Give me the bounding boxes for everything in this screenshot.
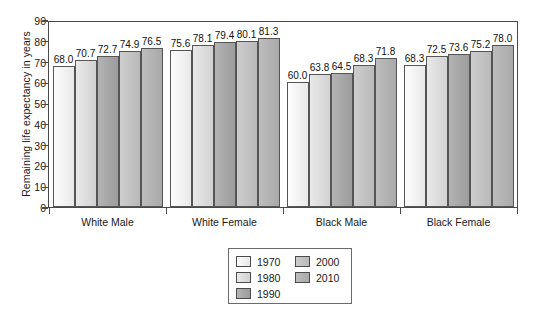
x-axis-tick-mark [517,208,518,214]
bar-value-label: 73.6 [449,42,468,53]
bar: 80.1 [236,41,258,207]
bar-value-label: 75.6 [171,38,190,49]
legend-label: 2010 [316,273,339,284]
legend-item: 2000 [295,254,339,270]
y-axis-tick-label: 80 [0,37,46,48]
y-axis-tick-label: 10 [0,182,46,193]
x-axis-tick-mark [400,208,401,214]
bar: 78.0 [492,45,514,207]
bar-value-label: 71.8 [376,46,395,57]
x-axis-category-label: White Male [48,216,168,228]
x-axis-category-label: Black Female [399,216,519,228]
legend-item: 1980 [236,270,280,286]
x-axis-category-label: Black Male [282,216,402,228]
bar: 74.9 [119,51,141,207]
bar-group: 75.678.179.480.181.3 [170,22,280,207]
bar: 64.5 [331,73,353,207]
bar: 78.1 [192,45,214,207]
legend-swatch [236,288,251,299]
legend-swatch [236,256,251,267]
bar: 76.5 [141,48,163,207]
bar-value-label: 78.0 [493,33,512,44]
bar-group: 68.070.772.774.976.5 [53,22,163,207]
bar-value-label: 70.7 [76,48,95,59]
bar-value-label: 81.3 [259,26,278,37]
bar-value-label: 72.5 [427,44,446,55]
bar-value-label: 78.1 [193,33,212,44]
bar: 71.8 [375,58,397,207]
y-axis-tick-label: 90 [0,16,46,27]
bar-value-label: 64.5 [332,61,351,72]
legend-item: 1970 [236,254,280,270]
y-axis-tick-label: 50 [0,99,46,110]
x-axis-tick-mark [49,208,50,214]
y-axis-tick-label: 40 [0,120,46,131]
legend-swatch [295,256,310,267]
y-axis-tick-label: 70 [0,57,46,68]
bar: 63.8 [309,74,331,207]
legend-column-left: 197019801990 [236,254,280,302]
bar: 72.5 [426,56,448,207]
legend-item: 1990 [236,286,280,302]
x-axis-tick-mark [283,208,284,214]
bar: 68.3 [353,65,375,207]
bar-value-label: 80.1 [237,29,256,40]
bar: 75.6 [170,50,192,207]
legend-column-right: 20002010 [295,254,339,286]
bar: 81.3 [258,38,280,207]
bar-value-label: 72.7 [98,44,117,55]
bar-value-label: 60.0 [288,70,307,81]
bar: 75.2 [470,51,492,207]
legend: 197019801990 20002010 [228,248,352,304]
y-axis-tick-label: 0 [0,203,46,214]
bar-value-label: 75.2 [471,39,490,50]
legend-label: 1970 [257,257,280,268]
bar-value-label: 68.3 [405,53,424,64]
x-axis-category-label: White Female [165,216,285,228]
bar-value-label: 68.0 [54,54,73,65]
bar: 72.7 [97,56,119,207]
plot-area: 68.070.772.774.976.575.678.179.480.181.3… [48,21,518,208]
bar-group: 60.063.864.568.371.8 [287,22,397,207]
bar: 73.6 [448,54,470,207]
bar: 68.0 [53,66,75,207]
bar-value-label: 79.4 [215,30,234,41]
legend-swatch [236,272,251,283]
bar: 79.4 [214,42,236,207]
y-axis-tick-label: 20 [0,161,46,172]
legend-label: 1990 [257,289,280,300]
x-axis-tick-mark [166,208,167,214]
bar-value-label: 74.9 [120,39,139,50]
legend-swatch [295,272,310,283]
legend-label: 1980 [257,273,280,284]
bar-value-label: 63.8 [310,62,329,73]
y-axis-tick-label: 30 [0,140,46,151]
bar: 68.3 [404,65,426,207]
legend-label: 2000 [316,257,339,268]
bar: 70.7 [75,60,97,207]
legend-item: 2010 [295,270,339,286]
bar-value-label: 68.3 [354,53,373,64]
bar-value-label: 76.5 [142,36,161,47]
bar-group: 68.372.573.675.278.0 [404,22,514,207]
bar-chart: Remaining life expectancy in years 01020… [0,0,534,315]
bar: 60.0 [287,82,309,207]
y-axis-tick-label: 60 [0,78,46,89]
